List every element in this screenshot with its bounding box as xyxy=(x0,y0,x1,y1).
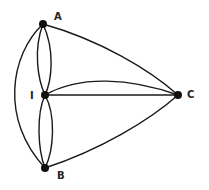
node-c-label: C xyxy=(187,89,194,100)
node-c xyxy=(174,91,182,99)
node-b xyxy=(41,164,49,172)
edge-a-c xyxy=(43,24,178,95)
edge-i-b-left xyxy=(39,95,45,168)
edge-i-c-upper xyxy=(45,81,178,95)
edge-i-b-right xyxy=(45,95,53,168)
node-i xyxy=(41,91,49,99)
edge-b-c xyxy=(45,95,178,168)
node-i-label: I xyxy=(30,90,34,101)
graph-diagram: A I B C xyxy=(0,0,209,190)
edge-a-i-right xyxy=(43,24,51,95)
node-a-label: A xyxy=(54,11,62,22)
node-b-label: B xyxy=(57,170,65,181)
node-a xyxy=(39,20,47,28)
edge-a-i-left xyxy=(37,24,45,95)
